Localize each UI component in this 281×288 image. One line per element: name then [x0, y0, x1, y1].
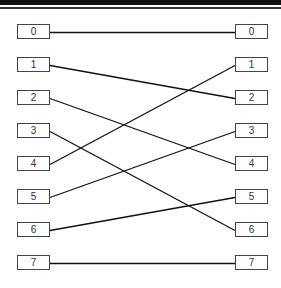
connection-5-to-3 — [50, 132, 235, 198]
right-node-6: 6 — [235, 222, 268, 237]
connection-2-to-4 — [50, 99, 235, 165]
left-node-1: 1 — [17, 57, 50, 72]
left-node-6: 6 — [17, 222, 50, 237]
right-node-4: 4 — [235, 156, 268, 171]
left-node-0: 0 — [17, 24, 50, 39]
connection-layer — [0, 0, 281, 288]
left-node-5: 5 — [17, 189, 50, 204]
right-node-7: 7 — [235, 255, 268, 270]
right-node-2: 2 — [235, 90, 268, 105]
connection-4-to-1 — [50, 66, 235, 165]
left-node-3: 3 — [17, 123, 50, 138]
right-node-3: 3 — [235, 123, 268, 138]
left-node-4: 4 — [17, 156, 50, 171]
connection-3-to-6 — [50, 132, 235, 231]
right-node-1: 1 — [235, 57, 268, 72]
connection-6-to-5 — [50, 198, 235, 231]
left-node-2: 2 — [17, 90, 50, 105]
right-node-5: 5 — [235, 189, 268, 204]
left-node-7: 7 — [17, 255, 50, 270]
connection-1-to-2 — [50, 66, 235, 99]
right-node-0: 0 — [235, 24, 268, 39]
